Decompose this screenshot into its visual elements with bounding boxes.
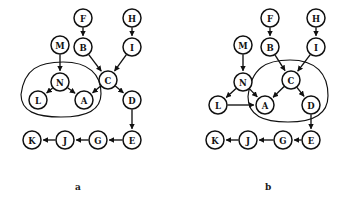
edge-C-to-D	[115, 86, 123, 93]
node-M[interactable]: M	[51, 36, 69, 54]
figure-container: FHMBINCLADKJGE FHMBINCLADKJGE a b	[0, 0, 346, 202]
node-label-E: E	[308, 136, 315, 146]
node-F[interactable]: F	[74, 9, 92, 27]
node-label-A: A	[261, 101, 269, 111]
node-label-G: G	[279, 136, 286, 146]
node-G[interactable]: G	[274, 131, 292, 149]
node-label-N: N	[56, 78, 64, 88]
edge-I-to-C	[115, 55, 127, 71]
node-label-C: C	[105, 76, 112, 86]
graph-figure: FHMBINCLADKJGE FHMBINCLADKJGE	[0, 0, 346, 202]
node-C[interactable]: C	[99, 71, 117, 89]
node-label-A: A	[80, 96, 88, 106]
node-label-J: J	[62, 136, 67, 146]
node-D[interactable]: D	[123, 91, 141, 109]
node-H[interactable]: H	[307, 9, 325, 27]
node-M[interactable]: M	[234, 36, 252, 54]
edge-B-to-C	[89, 55, 102, 72]
node-label-M: M	[238, 41, 248, 51]
node-B[interactable]: B	[74, 38, 92, 56]
node-N[interactable]: N	[51, 73, 69, 91]
node-L[interactable]: L	[209, 96, 227, 114]
node-label-K: K	[28, 136, 36, 146]
node-label-K: K	[211, 136, 219, 146]
node-A[interactable]: A	[256, 96, 274, 114]
node-label-B: B	[266, 43, 273, 53]
node-label-D: D	[307, 101, 315, 111]
node-A[interactable]: A	[75, 91, 93, 109]
node-I[interactable]: I	[307, 38, 325, 56]
node-G[interactable]: G	[89, 131, 107, 149]
node-label-N: N	[239, 78, 247, 88]
node-E[interactable]: E	[123, 131, 141, 149]
node-H[interactable]: H	[123, 9, 141, 27]
node-label-I: I	[130, 43, 134, 53]
node-label-M: M	[55, 41, 65, 51]
node-B[interactable]: B	[261, 38, 279, 56]
node-label-B: B	[79, 43, 86, 53]
node-label-J: J	[245, 136, 250, 146]
node-K[interactable]: K	[23, 131, 41, 149]
node-J[interactable]: J	[239, 131, 257, 149]
node-N[interactable]: N	[234, 73, 252, 91]
node-label-D: D	[128, 96, 136, 106]
edge-C-to-A	[273, 87, 284, 98]
panel-b: FHMBINCLADKJGE	[206, 9, 328, 149]
edge-N-to-L	[226, 88, 236, 97]
node-label-H: H	[312, 14, 320, 24]
edge-C-to-A	[93, 86, 101, 93]
node-label-C: C	[288, 76, 295, 86]
panel-label-b: b	[265, 182, 271, 192]
edge-C-to-D	[297, 87, 304, 96]
edge-N-to-A	[250, 89, 258, 97]
edge-N-to-A	[68, 88, 75, 94]
node-label-E: E	[129, 136, 136, 146]
edge-B-to-C	[275, 55, 285, 71]
node-label-F: F	[267, 14, 273, 24]
panel-a: FHMBINCLADKJGE	[21, 9, 141, 149]
node-label-I: I	[314, 43, 318, 53]
node-F[interactable]: F	[261, 9, 279, 27]
node-label-L: L	[35, 96, 41, 106]
panel-label-a: a	[75, 182, 81, 192]
node-K[interactable]: K	[206, 131, 224, 149]
node-J[interactable]: J	[56, 131, 74, 149]
edge-N-to-L	[47, 88, 53, 93]
node-I[interactable]: I	[123, 38, 141, 56]
node-E[interactable]: E	[302, 131, 320, 149]
node-C[interactable]: C	[282, 71, 300, 89]
node-D[interactable]: D	[302, 96, 320, 114]
node-L[interactable]: L	[29, 91, 47, 109]
node-label-G: G	[94, 136, 101, 146]
node-label-L: L	[215, 101, 221, 111]
node-label-H: H	[128, 14, 136, 24]
node-label-F: F	[80, 14, 86, 24]
